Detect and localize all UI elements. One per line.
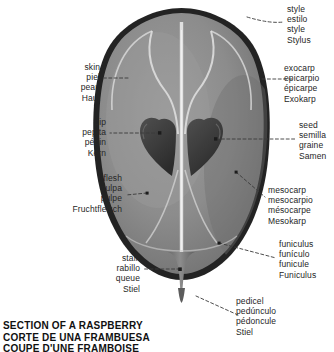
label-stalk-fr: queue — [58, 273, 140, 283]
label-skin-en: skin — [18, 62, 100, 72]
leader-pedicel — [196, 296, 238, 315]
endpoint-stalk — [178, 267, 182, 271]
diagram-title-en: SECTION OF A RASPBERRY — [3, 320, 150, 332]
diagram-title: SECTION OF A RASPBERRY CORTE DE UNA FRAM… — [3, 320, 150, 352]
label-mesocarp-es: mesocarpio — [268, 195, 313, 205]
label-pip-es: pepita — [24, 127, 106, 137]
label-pip-en: pip — [24, 117, 106, 127]
label-flesh-es: pulpa — [22, 183, 122, 193]
stalk-tip — [178, 288, 185, 303]
label-style-de: Stylus — [287, 35, 311, 45]
label-funiculus-es: funículo — [279, 249, 316, 259]
label-pedicel-es: pedúnculo — [236, 306, 276, 316]
label-pip: pip pepita pépin Kern — [24, 117, 106, 158]
label-stalk-en: stalk — [58, 253, 140, 263]
label-skin-de: Haut — [18, 93, 100, 103]
leader-style — [247, 17, 284, 22]
label-exocarp-de: Exokarp — [284, 94, 319, 104]
label-funiculus-en: funiculus — [279, 239, 316, 249]
diagram-title-es: CORTE DE UNA FRAMBUESA — [3, 332, 150, 344]
endpoint-flesh — [146, 192, 149, 195]
diagram-title-fr: COUPE D'UNE FRAMBOISE — [3, 343, 150, 352]
label-seed-es: semilla — [299, 130, 326, 140]
label-seed-en: seed — [299, 120, 326, 130]
label-seed: seed semilla graine Samen — [299, 120, 326, 161]
label-pedicel: pedicel pedúnculo pédoncule Stiel — [236, 296, 276, 337]
label-pedicel-en: pedicel — [236, 296, 276, 306]
label-funiculus: funiculus funículo funicule Funiculus — [279, 239, 316, 280]
endpoint-funiculus — [218, 242, 221, 245]
label-seed-de: Samen — [299, 151, 326, 161]
label-flesh-de: Fruchtfleisch — [22, 204, 122, 214]
raspberry-section-diagram: style estilo style Stylus exocarp epicar… — [0, 0, 334, 352]
label-mesocarp-fr: mésocarpe — [268, 205, 313, 215]
label-flesh-fr: pulpe — [22, 193, 122, 203]
label-skin-es: piel — [18, 72, 100, 82]
label-mesocarp-en: mesocarp — [268, 185, 313, 195]
label-exocarp: exocarp epicarpio épicarpe Exokarp — [284, 63, 319, 104]
label-style: style estilo style Stylus — [287, 4, 311, 45]
label-seed-fr: graine — [299, 140, 326, 150]
label-style-fr: style — [287, 24, 311, 34]
label-pedicel-de: Stiel — [236, 327, 276, 337]
label-skin-fr: peau — [18, 82, 100, 92]
label-flesh: flesh pulpa pulpe Fruchtfleisch — [22, 173, 122, 214]
label-stalk-es: rabillo — [58, 263, 140, 273]
label-exocarp-es: epicarpio — [284, 73, 319, 83]
label-mesocarp: mesocarp mesocarpio mésocarpe Mesokarp — [268, 185, 313, 226]
label-funiculus-fr: funicule — [279, 259, 316, 269]
label-exocarp-en: exocarp — [284, 63, 319, 73]
endpoint-mesocarp — [235, 171, 238, 174]
label-funiculus-de: Funiculus — [279, 270, 316, 280]
label-exocarp-fr: épicarpe — [284, 83, 319, 93]
label-style-en: style — [287, 4, 311, 14]
endpoint-pip — [158, 131, 161, 134]
label-flesh-en: flesh — [22, 173, 122, 183]
label-style-es: estilo — [287, 14, 311, 24]
label-stalk: stalk rabillo queue Stiel — [58, 253, 140, 294]
label-pip-fr: pépin — [24, 137, 106, 147]
label-pip-de: Kern — [24, 148, 106, 158]
endpoint-seed — [214, 137, 217, 140]
label-skin: skin piel peau Haut — [18, 62, 100, 103]
label-pedicel-fr: pédoncule — [236, 316, 276, 326]
label-stalk-de: Stiel — [58, 284, 140, 294]
label-mesocarp-de: Mesokarp — [268, 216, 313, 226]
